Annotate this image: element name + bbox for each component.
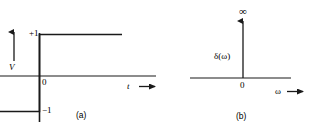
lower-level-label: −1 <box>42 106 52 115</box>
v-axis-label: V <box>9 63 15 72</box>
infinity-label: ∞ <box>239 6 247 17</box>
panel-b: ∞ δ(ω) 0 ω (b) <box>160 0 321 135</box>
panel-a-caption: (a) <box>76 110 86 120</box>
origin-label-b: 0 <box>240 81 245 90</box>
signum-waveform <box>0 35 122 112</box>
delta-function-label: δ(ω) <box>214 52 230 61</box>
t-axis-label: t <box>127 82 130 91</box>
omega-axis-label: ω <box>275 87 281 96</box>
figure-container: +1 0 −1 V t (a) ∞ δ(ω) <box>0 0 321 135</box>
upper-level-label: +1 <box>29 29 39 38</box>
panel-a: +1 0 −1 V t (a) <box>0 0 161 135</box>
origin-label-a: 0 <box>42 78 47 87</box>
panel-b-caption: (b) <box>236 111 246 121</box>
